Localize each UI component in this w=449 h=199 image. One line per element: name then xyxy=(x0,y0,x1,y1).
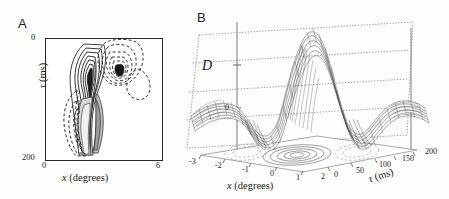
figure-root: A xyxy=(0,0,449,199)
panel-b-surface-plot xyxy=(185,0,449,199)
panel-b-xtick--3: -3 xyxy=(189,157,196,166)
panel-a-contours xyxy=(46,39,162,160)
panel-a-xtick-6: 6 xyxy=(156,160,160,170)
panel-a-y-axis-label: τ (ms) xyxy=(37,46,48,106)
panel-b-tautick-0: 0 xyxy=(334,170,338,179)
panel-b-tautick-200: 200 xyxy=(425,147,437,156)
panel-a-xtick-0: 0 xyxy=(42,160,46,170)
panel-a-x-axis-symbol: x xyxy=(62,172,67,183)
panel-b-tautick-50: 50 xyxy=(356,166,364,175)
panel-a-y-axis-unit: (ms) xyxy=(37,63,48,82)
panel-b-xtick--2: -2 xyxy=(215,161,222,170)
panel-b-x-axis-label: x (degrees) xyxy=(227,180,273,191)
panel-a-plot-frame xyxy=(45,38,163,161)
panel-b-d-axis-label: D xyxy=(202,58,212,74)
panel-b-x-axis-unit: (degrees) xyxy=(234,180,273,191)
panel-a-y-axis-symbol: τ xyxy=(37,85,48,89)
panel-a-x-axis-unit: (degrees) xyxy=(69,172,108,183)
panel-b-d-tick-0: 0 xyxy=(225,103,229,112)
panel-b-xtick-2: 2 xyxy=(321,172,325,181)
panel-b-tautick-150: 150 xyxy=(402,154,414,163)
panel-a: A xyxy=(0,0,200,199)
panel-b-mesh xyxy=(191,28,429,153)
panel-b-xtick-1: 1 xyxy=(296,173,300,182)
panel-a-ytick-200: 200 xyxy=(22,152,35,162)
panel-b-xtick--1: -1 xyxy=(242,165,249,174)
panel-b-x-axis-symbol: x xyxy=(227,180,232,191)
panel-a-letter: A xyxy=(18,16,27,31)
panel-b: B xyxy=(185,0,449,199)
panel-b-xtick-0: 0 xyxy=(270,169,274,178)
panel-a-ytick-0: 0 xyxy=(31,32,35,42)
panel-a-x-axis-label: x (degrees) xyxy=(62,172,108,183)
